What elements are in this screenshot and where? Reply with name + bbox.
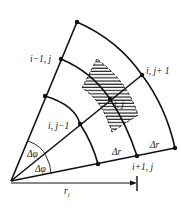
label-node-i-minus-1-j: i−1, j [30,54,52,64]
node-inner-top [43,94,47,98]
label-delta-r-outer: Δr [149,140,160,150]
control-volume-hatch [82,59,138,132]
label-node-i-plus-1-j: i+1, j [132,162,154,172]
radial-line-middle [11,75,142,181]
label-node-i-j-minus-1: i, j−1 [48,121,69,131]
node-inner-bottom [96,162,100,166]
node-outer-top [75,20,79,24]
node-i-plus-1-j [135,154,139,158]
label-delta-phi-upper: Δφ [26,149,38,159]
radius-dimension [11,176,137,191]
node-i-j [108,97,112,101]
node-i-j-plus-1 [140,73,144,77]
radial-line-top [11,22,77,181]
node-i-j-minus-1 [78,122,82,126]
label-radius: ri [64,186,70,198]
label-delta-phi-lower: Δφ [34,164,46,174]
polar-grid-diagram: i−1, j i, j+ 1 i, j i, j−1 i+1, j Δφ Δφ … [0,0,181,215]
node-outer-bottom [173,146,177,150]
label-node-i-j: i, j [114,99,124,109]
diagram-svg: i−1, j i, j+ 1 i, j i, j−1 i+1, j Δφ Δφ … [0,0,181,215]
node-i-minus-1-j [59,57,63,61]
angle-arc-lower [46,156,51,174]
label-node-i-j-plus-1: i, j+ 1 [146,66,170,76]
label-delta-r-inner: Δr [111,147,122,157]
